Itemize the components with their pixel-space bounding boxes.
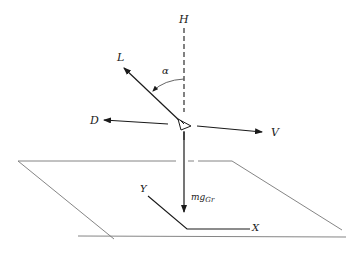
force-diagram [0, 0, 362, 253]
label-weight-main: mg [191, 192, 205, 202]
label-h: H [179, 14, 189, 25]
alpha-angle-arc [153, 79, 184, 91]
label-d: D [90, 115, 99, 126]
label-alpha: α [162, 66, 169, 76]
label-x: X [252, 223, 259, 233]
lift-vector [124, 68, 182, 123]
label-l: L [117, 52, 124, 63]
label-weight-subscript: Gr [205, 196, 214, 204]
drag-vector [104, 120, 168, 124]
label-v: V [271, 127, 279, 138]
ground-plane [18, 161, 346, 239]
velocity-vector [197, 126, 262, 132]
label-weight: mgGr [191, 193, 214, 204]
aircraft-icon [178, 119, 191, 130]
label-y: Y [140, 184, 147, 194]
